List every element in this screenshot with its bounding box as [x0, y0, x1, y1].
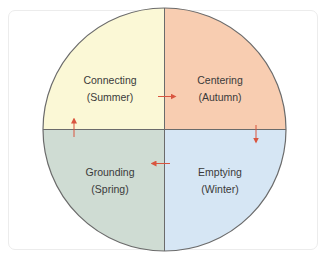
label-emptying: Emptying — [198, 166, 242, 178]
season-cycle-diagram: Connecting (Summer) Centering (Autumn) E… — [0, 0, 323, 257]
label-grounding: Grounding — [85, 166, 134, 178]
quadrant-summer — [43, 8, 165, 130]
label-autumn: (Autumn) — [198, 91, 241, 103]
label-connecting: Connecting — [83, 74, 136, 86]
label-winter: (Winter) — [201, 183, 238, 195]
label-spring: (Spring) — [91, 183, 128, 195]
label-summer: (Summer) — [87, 91, 134, 103]
label-centering: Centering — [197, 74, 243, 86]
quadrant-autumn — [165, 8, 290, 130]
